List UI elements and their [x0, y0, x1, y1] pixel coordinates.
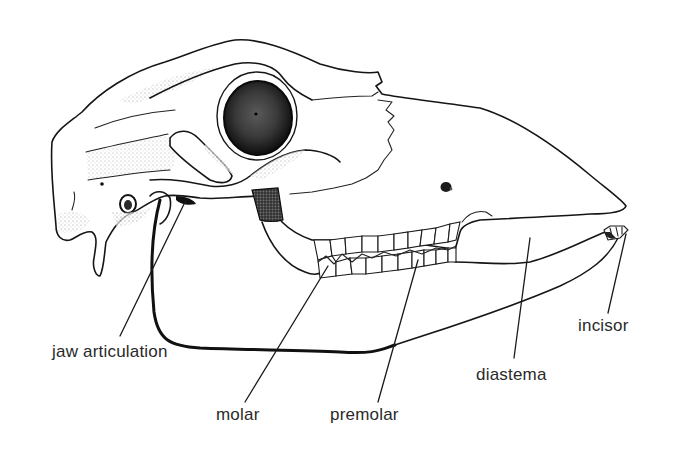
optic-foramen — [254, 112, 257, 115]
label-premolar: premolar — [330, 406, 399, 423]
label-molar: molar — [216, 406, 260, 423]
infraorbital-foramen — [441, 182, 452, 192]
lower-incisors — [604, 226, 628, 240]
leader-diastema — [514, 238, 530, 358]
label-incisor: incisor — [578, 317, 629, 334]
leader-premolar — [378, 260, 418, 402]
skull-diagram — [0, 0, 680, 456]
orbit — [224, 81, 292, 155]
mastoid-foramen — [100, 182, 104, 186]
mandible-upper-border — [455, 232, 605, 264]
label-jaw-articulation: jaw articulation — [52, 343, 168, 360]
leader-molar — [245, 266, 328, 402]
leader-incisor — [608, 234, 626, 313]
label-diastema: diastema — [476, 366, 547, 383]
maxillary-tuberosity — [252, 188, 283, 222]
